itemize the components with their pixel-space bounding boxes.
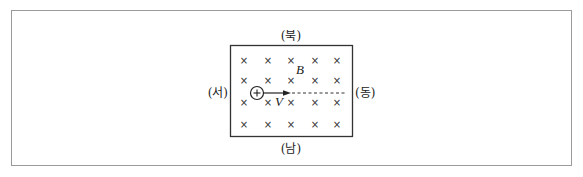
positive-charge-icon (251, 87, 264, 100)
cross-icon: × (311, 55, 319, 66)
cross-icon: × (311, 119, 319, 130)
cross-icon: × (240, 55, 248, 66)
cross-icon: × (287, 119, 295, 130)
west-label: (서) (208, 86, 228, 100)
cross-icon: × (240, 97, 248, 108)
cross-icon: × (333, 119, 341, 130)
magnetic-field-diagram: (북) (남) (서) (동) × × × × × × × × × × × × … (0, 0, 583, 177)
cross-icon: × (287, 97, 295, 108)
cross-icon: × (333, 75, 341, 86)
north-label: (북) (281, 29, 301, 43)
east-label: (동) (355, 86, 375, 100)
cross-icon: × (287, 75, 295, 86)
south-label: (남) (281, 142, 301, 156)
cross-icon: × (240, 75, 248, 86)
cross-icon: × (264, 119, 272, 130)
cross-icon: × (240, 119, 248, 130)
cross-icon: × (264, 75, 272, 86)
cross-icon: × (264, 97, 272, 108)
cross-icon: × (311, 75, 319, 86)
cross-icon: × (333, 97, 341, 108)
velocity-label: V (275, 94, 285, 109)
field-label: B (296, 62, 304, 77)
cross-icon: × (311, 97, 319, 108)
cross-icon: × (264, 55, 272, 66)
cross-icon: × (333, 55, 341, 66)
cross-icon: × (287, 55, 295, 66)
